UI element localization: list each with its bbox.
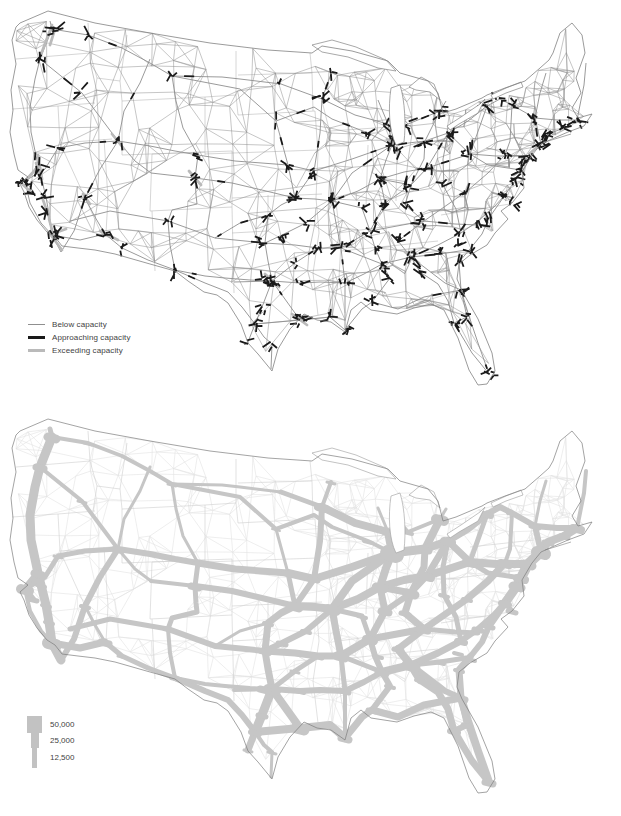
hub-flow-blob [560, 536, 568, 538]
great-lake [491, 490, 523, 507]
hub-flow-blob [194, 563, 202, 565]
exceeding-capacity-line-swatch [28, 349, 45, 352]
hub-flow-blob [318, 507, 326, 509]
hub-flow-blob [457, 641, 465, 643]
below-capacity-label: Below capacity [52, 320, 107, 329]
flow-band [168, 629, 175, 678]
hub-flow-blob [483, 514, 491, 516]
freight-map-layers [10, 419, 592, 793]
secondary-road-network [16, 22, 584, 364]
hub-flow-blob [284, 573, 292, 575]
hub-flow-blob [573, 528, 581, 530]
hub-flow-blob [310, 579, 318, 581]
flow-band [332, 609, 341, 656]
flow-step-12500 [32, 748, 37, 768]
hub-flow-blob [407, 665, 415, 667]
flow-step-50000 [27, 716, 42, 733]
flow-band [459, 657, 470, 698]
hub-flow-blob [45, 622, 53, 624]
hub-flow-blob [388, 553, 396, 555]
hub-flow-blob [376, 587, 384, 589]
hub-flow-blob [337, 656, 345, 658]
flow-band [265, 651, 272, 689]
flow-step-25000 [31, 733, 39, 748]
hub-flow-blob [378, 672, 386, 674]
hub-flow-blob [463, 599, 471, 601]
hub-flow-blob [454, 653, 462, 655]
hub-flow-blob [328, 609, 336, 611]
below-capacity-line-swatch [28, 324, 45, 325]
hub-flow-blob [436, 662, 444, 664]
hub-flow-blob [118, 656, 126, 658]
hub-flow-blob [48, 437, 56, 439]
legend-item-approaching-capacity: Approaching capacity [28, 331, 131, 344]
flow-label-12500: 12,500 [50, 753, 74, 763]
hub-flow-blob [341, 691, 349, 693]
hub-flow-blob [191, 586, 199, 588]
hub-flow-blob [474, 629, 482, 631]
freight-flow-map-figure [0, 404, 621, 816]
two-map-figure-page: Below capacity Approaching capacity Exce… [0, 0, 621, 816]
hub-flow-blob [366, 639, 374, 641]
exceeding-capacity-segments [21, 25, 541, 325]
hub-flow-blob [401, 613, 409, 615]
flow-band [168, 586, 197, 629]
hub-flow-blob [302, 631, 310, 633]
flow-band [215, 623, 268, 646]
hub-flow-blob [531, 526, 539, 528]
approaching-capacity-label: Approaching capacity [52, 333, 131, 342]
hub-flow-blob [517, 578, 525, 580]
freight-flow-map-canvas [0, 404, 621, 816]
flow-band [276, 529, 288, 573]
great-lake [312, 40, 396, 71]
hub-flow-blob [501, 563, 509, 565]
hub-flow-blob [81, 606, 89, 608]
approaching-capacity-line-swatch [28, 336, 45, 339]
flow-band [195, 563, 198, 586]
hub-flow-blob [374, 656, 382, 658]
hub-flow-blob [544, 542, 552, 544]
flow-band [271, 752, 272, 777]
flow-band [52, 437, 172, 484]
hub-flow-blob [261, 651, 269, 653]
flow-label-25000: 25,000 [50, 736, 74, 746]
hub-flow-blob [314, 656, 322, 658]
flow-scale-labels: 50,000 25,000 12,500 [50, 716, 74, 763]
hub-flow-blob [42, 605, 50, 607]
hub-flow-blob [386, 686, 394, 688]
great-lake [409, 485, 440, 508]
capacity-legend: Below capacity Approaching capacity Exce… [28, 318, 131, 357]
flow-width-scale-symbol [27, 716, 42, 768]
great-lake [491, 82, 523, 99]
hub-flow-blob [358, 616, 366, 618]
hub-flow-blob [508, 513, 516, 515]
hub-flow-blob [421, 549, 429, 551]
exceeding-capacity-label: Exceeding capacity [52, 346, 123, 355]
hub-flow-blob [168, 484, 176, 486]
hub-flow-blob [114, 549, 122, 551]
hub-flow-blob [268, 752, 276, 754]
hub-flow-blob [364, 541, 372, 543]
legend-item-exceeding-capacity: Exceeding capacity [28, 344, 131, 357]
hub-flow-blob [466, 562, 474, 564]
flow-band [535, 481, 546, 526]
hub-flow-blob [36, 467, 44, 469]
hub-flow-blob [278, 643, 286, 645]
hub-flow-blob [326, 725, 334, 727]
hub-flow-blob [440, 595, 448, 597]
hub-flow-blob [513, 586, 521, 588]
hub-flow-blob [258, 715, 266, 717]
hub-flow-blob [34, 573, 42, 575]
great-lake [312, 448, 396, 479]
hub-flow-blob [423, 576, 431, 578]
hub-flow-blob [29, 599, 37, 601]
flow-band [198, 563, 288, 573]
legend-item-below-capacity: Below capacity [28, 318, 131, 331]
hub-flow-blob [101, 642, 109, 644]
flow-band [272, 689, 345, 691]
hub-flow-blob [164, 629, 172, 631]
flow-band [505, 513, 512, 563]
flow-band [265, 651, 341, 656]
hub-flow-blob [416, 680, 424, 682]
great-lake [409, 77, 440, 100]
